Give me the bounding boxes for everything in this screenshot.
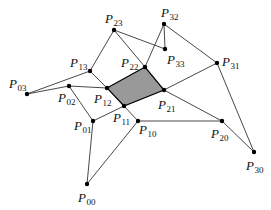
control-net-diagram: P00P01P02P03P10P11P12P13P20P21P22P23P30P… [0, 0, 271, 210]
label-p03: P03 [8, 76, 27, 93]
label-p12: P12 [93, 91, 111, 108]
point-p30 [252, 150, 256, 154]
label-p02: P02 [57, 90, 75, 107]
label-p21: P21 [157, 97, 175, 114]
label-p33: P33 [166, 52, 185, 69]
label-p01: P01 [73, 118, 91, 135]
label-p13: P13 [69, 55, 88, 72]
point-p12 [105, 86, 109, 90]
label-p00: P00 [77, 190, 96, 207]
point-p02 [67, 84, 71, 88]
label-p23: P23 [104, 11, 123, 28]
point-p23 [112, 28, 116, 32]
label-p22: P22 [120, 55, 138, 72]
labels: P00P01P02P03P10P11P12P13P20P21P22P23P30P… [8, 5, 264, 207]
point-p20 [220, 119, 224, 123]
edge-p32-p22 [145, 24, 164, 67]
point-p01 [91, 119, 95, 123]
shaded-face [107, 67, 164, 106]
point-p32 [162, 22, 166, 26]
label-p32: P32 [160, 5, 178, 22]
point-p31 [215, 61, 219, 65]
edge-p00-p10 [87, 121, 138, 184]
edge-p13-p12 [90, 71, 107, 88]
point-p00 [85, 182, 89, 186]
label-p20: P20 [210, 126, 229, 143]
point-p11 [122, 104, 126, 108]
label-p30: P30 [245, 158, 264, 175]
label-p31: P31 [221, 54, 239, 71]
edge-p13-p23 [90, 30, 114, 71]
point-p13 [88, 69, 92, 73]
point-p21 [162, 88, 166, 92]
label-p11: P11 [112, 110, 130, 127]
point-p33 [163, 47, 167, 51]
edge-p32-p33 [164, 24, 165, 49]
edge-p31-p21 [164, 63, 217, 90]
edge-p02-p12 [69, 86, 107, 88]
point-p22 [143, 65, 147, 69]
label-p10: P10 [138, 122, 157, 139]
